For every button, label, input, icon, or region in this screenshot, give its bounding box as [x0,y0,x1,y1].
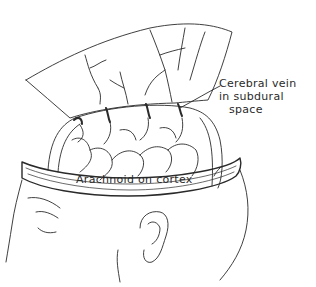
bridging-vein-3 [146,104,150,118]
ear [140,212,168,263]
bridging-vein-1 [74,118,82,124]
label-cerebral-vein-line3: space [229,104,263,116]
cheek [38,228,56,233]
eye [36,211,58,218]
back-of-head [220,170,248,280]
label-cerebral-vein-line1: Cerebral vein [219,78,297,90]
anatomical-illustration: Cerebral vein in subdural space Arachnoi… [0,0,316,287]
drawing [0,0,316,287]
face-profile [6,180,22,262]
dura-flap [26,24,232,118]
label-cerebral-vein-line2: in subdural [219,91,284,103]
label-arachnoid: Arachnoid on cortex [76,174,193,186]
eyebrow [28,197,60,208]
